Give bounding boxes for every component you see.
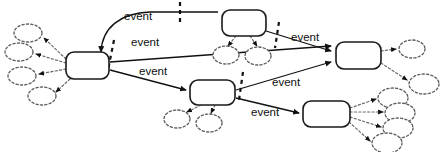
cloud-edge-s2-c5 <box>228 36 236 46</box>
cloud-edge-s4-c7 <box>187 105 201 112</box>
event-label-t6: event <box>251 106 280 118</box>
barrier-t5 <box>239 72 243 100</box>
event-label-t2: event <box>131 36 160 48</box>
cloud-node-c1 <box>14 24 42 42</box>
cloud-edge-s5-c14 <box>349 122 370 141</box>
cloud-edge-s4-c8 <box>211 105 215 113</box>
state-node-s1[interactable] <box>66 52 109 79</box>
cloud-node-c10 <box>409 74 439 94</box>
cloud-node-c3 <box>8 67 36 85</box>
event-edge-s1-s2 <box>101 12 218 52</box>
event-label-t4: event <box>291 31 320 43</box>
state-node-s4[interactable] <box>190 80 235 105</box>
cloud-edge-s5-c11 <box>350 99 376 108</box>
cloud-edge-s3-c9 <box>381 49 396 51</box>
cloud-edge-s2-c6 <box>250 36 257 46</box>
event-label-t1: event <box>124 10 153 22</box>
cloud-edge-s1-c4 <box>56 79 70 92</box>
diagram-canvas: event event event event event event <box>0 0 447 152</box>
cloud-edge-s1-c1 <box>44 38 66 59</box>
cloud-node-c4 <box>28 87 56 105</box>
state-transition-diagram: event event event event event event <box>0 0 447 152</box>
cloud-edge-s1-c3 <box>39 69 66 74</box>
cloud-node-c7 <box>164 110 190 128</box>
cloud-node-c2 <box>5 43 33 61</box>
state-node-s5[interactable] <box>303 101 350 127</box>
cloud-node-c6 <box>245 47 271 65</box>
event-label-t3: event <box>139 65 168 77</box>
state-node-s3[interactable] <box>336 42 381 69</box>
cloud-node-c8 <box>196 114 222 132</box>
state-node-group <box>66 10 381 127</box>
cloud-edge-s3-c10 <box>381 63 407 80</box>
cloud-edge-s5-c13 <box>350 117 381 127</box>
state-node-s2[interactable] <box>222 10 266 36</box>
cloud-node-c9 <box>399 40 425 58</box>
cloud-node-c14 <box>372 133 402 152</box>
cloud-node-c5 <box>213 46 239 64</box>
event-label-t5: event <box>272 76 301 88</box>
